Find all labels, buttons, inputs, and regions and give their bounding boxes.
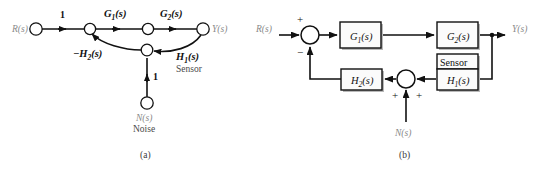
bd-edge-h2-to-input-summer: [310, 47, 341, 79]
sfg-label-h1: H1(s): [175, 51, 199, 65]
panel-b-block-diagram: G1(s) G2(s) H2(s): [255, 13, 527, 161]
svg-text:G2(s): G2(s): [160, 8, 182, 22]
bd-label-output: Y(s): [512, 24, 527, 35]
control-system-diagram: R(s) Y(s) 1 G1(s) G2(s) −H2(s): [0, 0, 544, 170]
bd-h1-suffix: (s): [458, 75, 470, 87]
panel-a-signal-flow-graph: R(s) Y(s) 1 G1(s) G2(s) −H2(s): [11, 8, 227, 161]
sfg-h2-suffix: (s): [91, 48, 102, 60]
sfg-node-noise-n[interactable]: [141, 97, 153, 109]
bd-sign-input-minus: −: [297, 46, 303, 58]
sfg-label-noise-n: N(s): [135, 113, 152, 124]
sfg-node-input-r[interactable]: [30, 23, 42, 35]
sfg-label-noise: Noise: [133, 124, 155, 134]
bd-label-sensor: Sensor: [440, 57, 468, 68]
sfg-h1-suffix: (s): [188, 51, 199, 63]
sfg-h2-name: −H: [73, 48, 88, 59]
bd-label-input: R(s): [255, 24, 272, 35]
sfg-label-input: R(s): [11, 24, 28, 35]
sfg-label-sensor: Sensor: [176, 64, 203, 74]
sfg-label-g1: G1(s): [104, 8, 126, 22]
sfg-label-input-gain: 1: [60, 9, 65, 20]
bd-block-g2[interactable]: G2(s): [437, 22, 480, 50]
svg-text:H1(s): H1(s): [175, 51, 199, 65]
sfg-label-h2: −H2(s): [73, 48, 102, 62]
sfg-g1-suffix: (s): [115, 8, 126, 20]
bd-h2-suffix: (s): [362, 75, 374, 87]
sfg-node-error[interactable]: [84, 23, 95, 34]
sfg-node-output-y[interactable]: [197, 23, 209, 35]
bd-sign-noise-plus-left: +: [392, 89, 398, 101]
edge-h1-feedback: [154, 35, 201, 51]
bd-sign-input-plus: +: [297, 13, 303, 25]
sfg-node-feedback-sum[interactable]: [141, 44, 153, 56]
sfg-label-g2: G2(s): [160, 8, 182, 22]
sfg-node-mid[interactable]: [142, 23, 153, 34]
sfg-g2-suffix: (s): [171, 8, 182, 20]
svg-text:−H2(s): −H2(s): [73, 48, 102, 62]
svg-text:G1(s): G1(s): [104, 8, 126, 22]
bd-block-h2[interactable]: H2(s): [341, 69, 384, 92]
caption-panel-a: (a): [140, 150, 151, 161]
bd-g1-suffix: (s): [361, 31, 373, 43]
bd-summer-input[interactable]: [301, 26, 319, 44]
bd-sign-noise-plus-right: +: [416, 89, 422, 101]
figure-canvas: R(s) Y(s) 1 G1(s) G2(s) −H2(s): [0, 0, 544, 170]
bd-block-g1[interactable]: G1(s): [340, 22, 383, 50]
sfg-label-output: Y(s): [212, 24, 227, 35]
bd-edge-branch-to-h1: [480, 35, 492, 79]
sfg-label-noise-gain: 1: [153, 71, 158, 82]
caption-panel-b: (b): [399, 150, 410, 161]
bd-g2-suffix: (s): [458, 31, 470, 43]
bd-summer-noise[interactable]: [397, 70, 415, 88]
bd-label-noise: N(s): [394, 128, 411, 139]
bd-block-sensor-h1[interactable]: Sensor H1(s): [437, 54, 480, 92]
